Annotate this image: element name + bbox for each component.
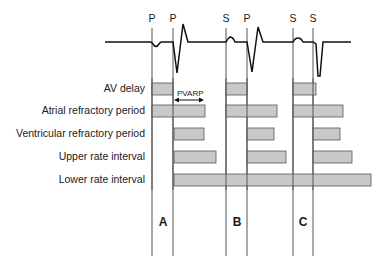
interval-bar (247, 128, 274, 140)
row-label: Lower rate interval (59, 173, 145, 185)
event-label: S (309, 12, 316, 24)
pacemaker-timing-diagram: PPSPSSAV delayAtrial refractory periodVe… (0, 0, 382, 265)
event-label: S (222, 12, 229, 24)
event-label: S (289, 12, 296, 24)
ecg-trace (105, 24, 351, 76)
event-label: P (243, 12, 250, 24)
interval-bar (313, 128, 340, 140)
row-label: Atrial refractory period (42, 104, 145, 116)
row-label: Ventricular refractory period (16, 127, 145, 139)
section-label: A (159, 215, 168, 229)
interval-bar (293, 105, 343, 117)
interval-bar (174, 174, 371, 186)
section-label: B (233, 215, 242, 229)
row-label: AV delay (104, 82, 145, 94)
row-label: Upper rate interval (59, 150, 145, 162)
interval-bar (152, 83, 173, 95)
interval-bar (247, 151, 286, 163)
interval-bar (152, 105, 205, 117)
event-label: P (148, 12, 155, 24)
interval-bar (174, 151, 216, 163)
pvarp-arrow (174, 98, 204, 103)
section-label: C (299, 215, 308, 229)
interval-bar (226, 105, 277, 117)
interval-bar (174, 128, 204, 140)
event-label: P (169, 12, 176, 24)
pvarp-label: PVARP (177, 89, 204, 98)
interval-bar (226, 83, 247, 95)
interval-bar (313, 151, 352, 163)
